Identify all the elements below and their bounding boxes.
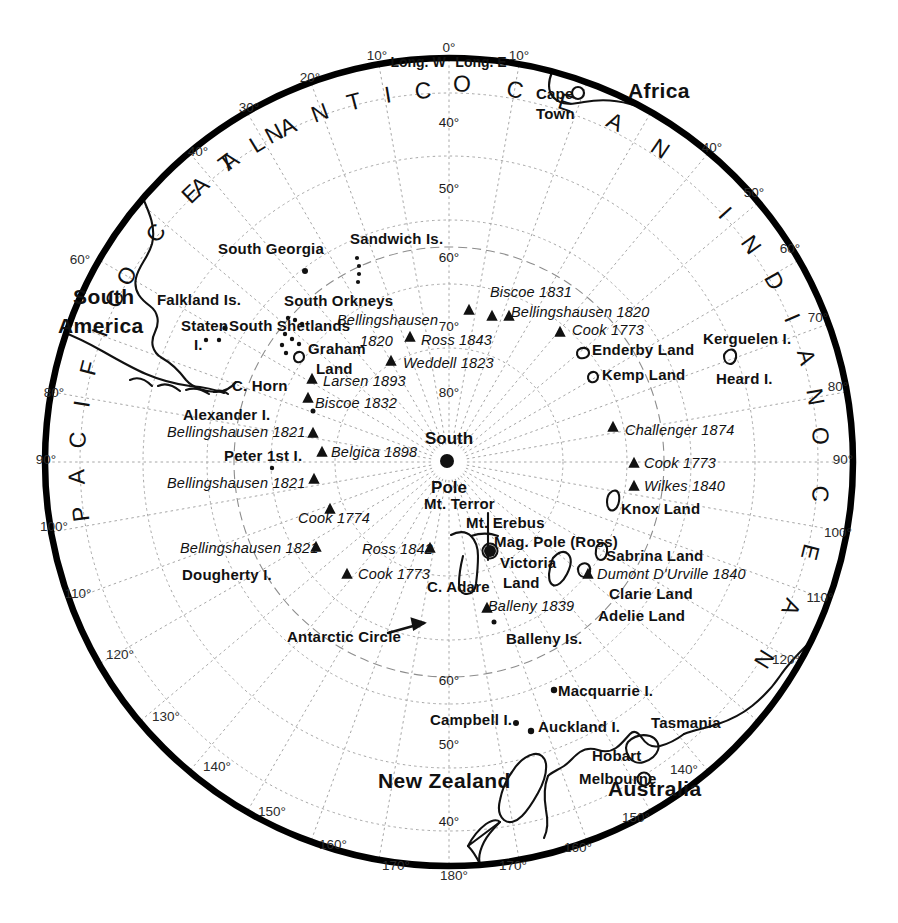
- place-label-falkland-is: Falkland Is.: [157, 292, 241, 307]
- longitude-label-24: 150°: [258, 805, 286, 819]
- latitude-label-0: 40°: [439, 116, 459, 130]
- expedition-label-wilkes-1840: Wilkes 1840: [644, 479, 725, 494]
- macquarrie-dot: [551, 687, 557, 693]
- ocean-letter-ocean-atlantic-0: O: [453, 70, 472, 98]
- longitude-label-10: 70°: [808, 311, 828, 325]
- longitude-label-26: 160°: [319, 838, 347, 852]
- longitude-label-3: 20°: [300, 71, 320, 85]
- place-label-africa: Africa: [628, 80, 690, 101]
- place-label-hobart: Hobart: [592, 748, 642, 763]
- ocean-letter-atlantic-7: C: [414, 77, 432, 105]
- hemisphere-header-long-e: Long. E: [455, 55, 506, 69]
- place-label-heard-i: Heard I.: [716, 371, 773, 386]
- balleny-dot: [492, 620, 497, 625]
- south-georgia-dot: [302, 268, 308, 274]
- expedition-label-balleny-1839: Balleny 1839: [488, 599, 574, 614]
- expedition-label-ross-1842: Ross 1842: [362, 542, 433, 557]
- antarctic-map: ATLANTICOCEANINDIANOCEANPACIFICOCEAN0°10…: [0, 0, 898, 923]
- expedition-label-bellingshausen-1821-a: Bellingshausen 1821: [167, 425, 305, 440]
- south-pole-label-1: South: [425, 430, 473, 447]
- place-label-mt-terror: Mt. Terror: [424, 496, 495, 511]
- longitude-label-30: 180°: [440, 869, 468, 883]
- hemisphere-header-long-w: Long. W: [390, 55, 445, 69]
- place-label-australia: Australia: [608, 778, 701, 799]
- expedition-label-biscoe-1831: Biscoe 1831: [490, 285, 572, 300]
- expedition-label-larsen-1893: Larsen 1893: [323, 374, 406, 389]
- latitude-label-5: 60°: [439, 674, 459, 688]
- place-label-south-shetlands: South Shetlands: [229, 318, 350, 333]
- place-label-staten-i-1: Staten: [181, 318, 228, 333]
- longitude-label-18: 110°: [807, 591, 834, 605]
- peter-1st-dot: [270, 466, 274, 470]
- place-label-c-adare: C. Adare: [427, 579, 490, 594]
- place-label-cape-town-2: Town: [536, 106, 575, 121]
- longitude-label-7: 50°: [744, 186, 764, 200]
- longitude-label-9: 60°: [780, 242, 800, 256]
- place-label-macquarrie-i: Macquarrie I.: [558, 683, 653, 698]
- south-pole-dot: [440, 454, 454, 468]
- longitude-label-15: 100°: [40, 520, 68, 534]
- expedition-label-cook-1773-a: Cook 1773: [572, 323, 644, 338]
- longitude-label-21: 130°: [152, 710, 180, 724]
- longitude-label-27: 160°: [564, 841, 592, 855]
- place-label-auckland-i: Auckland I.: [538, 719, 620, 734]
- place-label-graham-land-1: Graham: [308, 341, 366, 356]
- expedition-label-cook-1773-b: Cook 1773: [358, 567, 430, 582]
- place-label-cape-town: Cape: [536, 86, 573, 101]
- campbell-dot: [513, 720, 519, 726]
- longitude-label-12: 80°: [828, 380, 848, 394]
- ocean-letter-pacific-1: A: [63, 469, 91, 485]
- longitude-label-17: 110°: [65, 587, 92, 601]
- latitude-label-1: 50°: [439, 182, 459, 196]
- south-pole-label-2: Pole: [431, 479, 467, 496]
- longitude-label-23: 140°: [670, 763, 698, 777]
- expedition-label-bellingshausen-1820-w: 1820: [360, 334, 393, 349]
- place-label-peter-1st-i: Peter 1st I.: [224, 448, 302, 463]
- longitude-label-28: 170°: [382, 859, 410, 873]
- longitude-label-29: 170°: [499, 859, 527, 873]
- expedition-label-cook-1774: Cook 1774: [298, 511, 370, 526]
- ocean-letter-ocean-indian-1: C: [805, 485, 833, 504]
- longitude-label-11: 80°: [44, 386, 64, 400]
- expedition-label-belgica-1898: Belgica 1898: [331, 445, 417, 460]
- expedition-label-bellingshausen-1821-b: Bellingshausen 1821: [167, 476, 305, 491]
- place-label-sandwich-is: Sandwich Is.: [350, 231, 443, 246]
- place-label-staten-i-2: I.: [194, 337, 203, 352]
- expedition-label-biscoe-1832: Biscoe 1832: [315, 396, 397, 411]
- longitude-label-5: 40°: [188, 145, 208, 159]
- place-label-dougherty-i: Dougherty I.: [182, 567, 272, 582]
- expedition-label-dumont-d-urville-1840: Dumont D'Urville 1840: [597, 567, 746, 582]
- place-label-mt-erebus: Mt. Erebus: [466, 515, 545, 530]
- place-label-c-horn: C. Horn: [232, 378, 288, 393]
- place-label-enderby-land: Enderby Land: [592, 342, 694, 357]
- ocean-letter-ocean-indian-0: O: [806, 426, 834, 446]
- latitude-label-7: 40°: [439, 815, 459, 829]
- expedition-label-bellingshausen-1820-e: Bellingshausen 1820: [511, 305, 649, 320]
- place-label-kerguelen-i: Kerguelen I.: [703, 331, 791, 346]
- expedition-label-weddell-1823: Weddell 1823: [403, 356, 494, 371]
- place-label-knox-land: Knox Land: [621, 501, 700, 516]
- place-label-tasmania: Tasmania: [651, 715, 721, 730]
- longitude-label-6: 40°: [702, 141, 722, 155]
- place-label-campbell-i: Campbell I.: [430, 712, 512, 727]
- place-label-new-zealand: New Zealand: [378, 770, 511, 791]
- latitude-label-2: 60°: [439, 251, 459, 265]
- longitude-label-22: 140°: [203, 760, 231, 774]
- place-label-clarie-land: Clarie Land: [609, 586, 693, 601]
- longitude-label-14: 90°: [833, 453, 853, 467]
- longitude-label-25: 150°: [622, 811, 650, 825]
- place-label-sabrina-land: Sabrina Land: [606, 548, 703, 563]
- latitude-label-6: 50°: [439, 738, 459, 752]
- expedition-label-cook-1773-c: Cook 1773: [644, 456, 716, 471]
- place-label-balleny-is: Balleny Is.: [506, 631, 582, 646]
- longitude-label-20: 120°: [772, 653, 800, 667]
- ocean-letter-pacific-2: C: [64, 431, 92, 449]
- expedition-label-bellingshausen-w: Bellingshausen: [337, 313, 438, 328]
- latitude-label-4: 80°: [439, 386, 459, 400]
- auckland-dot: [528, 728, 534, 734]
- longitude-label-19: 120°: [106, 648, 134, 662]
- place-label-victoria-land-2: Land: [503, 575, 540, 590]
- longitude-label-8: 60°: [70, 253, 90, 267]
- place-label-victoria-land-1: Victoria: [500, 555, 556, 570]
- place-label-antarctic-circle: Antarctic Circle: [287, 629, 401, 644]
